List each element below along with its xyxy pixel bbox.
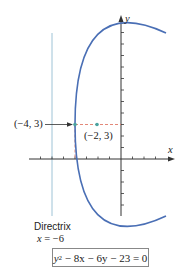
focus-point (95, 123, 99, 127)
directrix-equation: x = −6 (37, 234, 64, 245)
vertex-label: (−4, 3) (14, 119, 43, 130)
equation-y: y (54, 252, 59, 264)
equation-rest: − 8x − 6y − 23 = 0 (62, 252, 147, 264)
directrix-equation-var: x (37, 233, 42, 244)
vertex-arrow (45, 122, 73, 126)
parabola-equation-box: y2 − 8x − 6y − 23 = 0 (52, 248, 149, 267)
focus-label: (−2, 3) (84, 131, 113, 142)
x-axis-label: x (168, 145, 173, 156)
y-axis-label: y (125, 14, 130, 25)
directrix-equation-value: = −6 (44, 233, 64, 244)
vertex-point (73, 123, 77, 127)
directrix-title: Directrix (34, 222, 71, 232)
y-axis (119, 15, 125, 216)
x-axis (29, 157, 175, 162)
